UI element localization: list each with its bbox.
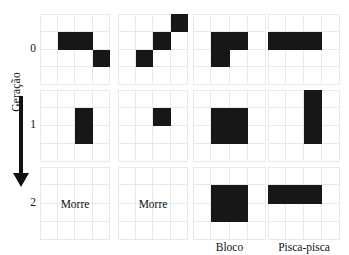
- pattern-caption-column-4: Pisca-pisca: [268, 241, 340, 253]
- live-cell: [211, 108, 229, 126]
- dead-cell: [58, 108, 76, 126]
- panel-column-2-gen-0: [118, 14, 188, 85]
- dead-cell: [193, 108, 211, 126]
- dead-cell: [93, 108, 111, 126]
- dead-cell: [286, 50, 304, 68]
- dead-cell: [93, 144, 111, 162]
- dead-cell: [286, 222, 304, 240]
- dead-cell: [153, 222, 171, 240]
- live-cell: [268, 32, 286, 50]
- live-cell: [153, 108, 171, 126]
- live-cell: [230, 32, 248, 50]
- dead-cell: [193, 144, 211, 162]
- dead-cell: [230, 90, 248, 108]
- dead-cell: [136, 67, 154, 85]
- dead-cell: [171, 167, 189, 185]
- live-cell: [211, 204, 229, 222]
- dead-cell: [193, 32, 211, 50]
- dead-cell: [75, 167, 93, 185]
- dead-cell: [193, 204, 211, 222]
- dead-cell: [322, 144, 340, 162]
- life-grid: [193, 14, 266, 85]
- dead-cell: [171, 108, 189, 126]
- dead-cell: [40, 14, 58, 32]
- generation-tick-1: 1: [18, 118, 36, 130]
- dead-cell: [211, 144, 229, 162]
- dead-cell: [322, 126, 340, 144]
- live-cell: [230, 126, 248, 144]
- live-cell: [211, 185, 229, 203]
- live-cell: [286, 32, 304, 50]
- panel-column-3-gen-2: Bloco: [193, 167, 266, 240]
- dead-cell: [268, 144, 286, 162]
- dead-cell: [40, 144, 58, 162]
- life-grid: [40, 167, 110, 240]
- live-cell: [230, 108, 248, 126]
- dead-cell: [268, 204, 286, 222]
- dead-cell: [93, 185, 111, 203]
- dead-cell: [40, 222, 58, 240]
- live-cell: [93, 50, 111, 68]
- dead-cell: [193, 90, 211, 108]
- dead-cell: [322, 204, 340, 222]
- dead-cell: [40, 167, 58, 185]
- panel-column-4-gen-1: [268, 90, 340, 162]
- dead-cell: [118, 222, 136, 240]
- dead-cell: [93, 32, 111, 50]
- dead-cell: [93, 67, 111, 85]
- dead-cell: [248, 32, 266, 50]
- dead-cell: [304, 67, 322, 85]
- dead-cell: [40, 204, 58, 222]
- panel-column-1-gen-1: [40, 90, 110, 162]
- dead-cell: [211, 67, 229, 85]
- dead-cell: [93, 222, 111, 240]
- dead-cell: [248, 67, 266, 85]
- dead-cell: [304, 14, 322, 32]
- dead-cell: [136, 90, 154, 108]
- dead-cell: [136, 222, 154, 240]
- life-grid: [40, 14, 110, 85]
- live-cell: [230, 185, 248, 203]
- panel-column-3-gen-1: [193, 90, 266, 162]
- dead-cell: [118, 185, 136, 203]
- dead-cell: [211, 90, 229, 108]
- dead-cell: [286, 167, 304, 185]
- dead-cell: [93, 204, 111, 222]
- dead-cell: [118, 14, 136, 32]
- panel-column-4-gen-0: [268, 14, 340, 85]
- dead-cell: [136, 144, 154, 162]
- dead-cell: [118, 32, 136, 50]
- dead-cell: [286, 14, 304, 32]
- panel-column-2-gen-1: [118, 90, 188, 162]
- dead-cell: [153, 185, 171, 203]
- panel-column-3-gen-0: [193, 14, 266, 85]
- dead-cell: [93, 167, 111, 185]
- dead-cell: [230, 14, 248, 32]
- dead-cell: [286, 144, 304, 162]
- dead-cell: [322, 222, 340, 240]
- dead-cell: [322, 90, 340, 108]
- dead-cell: [248, 144, 266, 162]
- live-cell: [211, 50, 229, 68]
- generation-tick-0: 0: [18, 42, 36, 54]
- panel-column-4-gen-2: Pisca-pisca: [268, 167, 340, 240]
- dead-cell: [75, 144, 93, 162]
- dead-cell: [93, 90, 111, 108]
- dead-cell: [58, 204, 76, 222]
- dead-cell: [268, 14, 286, 32]
- life-grid: [118, 14, 188, 85]
- dead-cell: [322, 67, 340, 85]
- dead-cell: [248, 14, 266, 32]
- dead-cell: [118, 67, 136, 85]
- dead-cell: [136, 167, 154, 185]
- dead-cell: [230, 144, 248, 162]
- dead-cell: [171, 32, 189, 50]
- life-grid: [40, 90, 110, 162]
- dead-cell: [93, 14, 111, 32]
- dead-cell: [75, 50, 93, 68]
- dead-cell: [171, 185, 189, 203]
- dead-cell: [75, 222, 93, 240]
- dead-cell: [171, 90, 189, 108]
- dead-cell: [230, 222, 248, 240]
- dead-cell: [171, 126, 189, 144]
